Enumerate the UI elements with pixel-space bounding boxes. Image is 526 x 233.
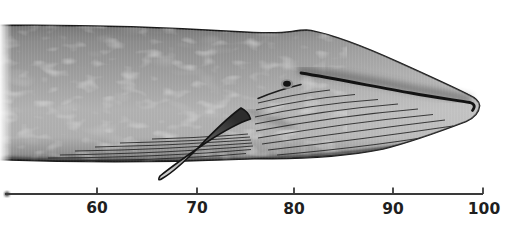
whale-body [0, 20, 490, 170]
whale-eye [281, 79, 293, 89]
whale-illustration: 60 70 80 90 100 [0, 0, 526, 233]
scale-label-100: 100 [468, 200, 501, 218]
scale-label-80: 80 [283, 200, 305, 218]
left-crop-fade [0, 16, 12, 168]
scale-label-70: 70 [186, 199, 208, 217]
whale-figure: 60 70 80 90 100 [0, 0, 526, 233]
scale-label-60: 60 [86, 199, 108, 217]
scale-label-90: 90 [382, 200, 404, 218]
measurement-scale: 60 70 80 90 100 [4, 188, 500, 218]
